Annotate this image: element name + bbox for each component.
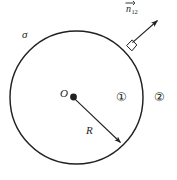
region-one-label: ① — [116, 91, 127, 103]
center-point-label: O — [60, 88, 68, 99]
figure-container: σ O R ① ② n 12 — [0, 0, 177, 180]
radius-label: R — [86, 125, 93, 136]
normal-vector-symbol: n — [126, 3, 131, 14]
diagram-canvas — [0, 0, 177, 180]
normal-vector-subscript: 12 — [132, 8, 138, 15]
surface-charge-density-label: σ — [22, 29, 27, 40]
radius-arrow — [75, 99, 121, 142]
normal-vector-arrow — [132, 21, 157, 43]
right-angle-marker — [127, 45, 137, 51]
normal-vector-symbol-wrap: n — [126, 4, 131, 14]
region-two-label: ② — [154, 91, 165, 103]
normal-vector-label: n 12 — [126, 4, 137, 14]
